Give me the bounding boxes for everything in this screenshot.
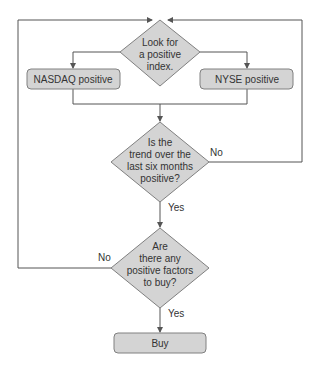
label-factors-yes: Yes: [168, 308, 184, 319]
label-trend-no: No: [210, 147, 223, 158]
svg-text:Is the: Is the: [148, 137, 173, 148]
node-factors: Are there any positive factors to buy?: [111, 228, 209, 308]
node-nasdaq: NASDAQ positive: [27, 69, 120, 89]
node-trend: Is the trend over the last six months po…: [111, 122, 209, 202]
svg-text:last six months: last six months: [127, 161, 193, 172]
svg-text:Are: Are: [152, 241, 168, 252]
svg-text:positive?: positive?: [140, 173, 180, 184]
svg-text:a positive: a positive: [139, 49, 182, 60]
edge-trend-no: [168, 20, 302, 162]
label-trend-yes: Yes: [168, 202, 184, 213]
node-buy: Buy: [114, 333, 206, 353]
label-factors-no: No: [98, 252, 111, 263]
node-start: Look for a positive index.: [120, 20, 200, 86]
svg-text:Look for: Look for: [142, 37, 179, 48]
svg-text:NASDAQ positive: NASDAQ positive: [34, 74, 113, 85]
svg-text:there any: there any: [139, 253, 181, 264]
svg-text:index.: index.: [147, 61, 174, 72]
edge-start-nasdaq: [73, 52, 120, 68]
edge-nasdaq-merge: [73, 89, 247, 104]
node-nyse: NYSE positive: [200, 69, 293, 89]
svg-text:Buy: Buy: [151, 338, 168, 349]
flowchart: Look for a positive index. NASDAQ positi…: [0, 0, 314, 373]
svg-text:positive factors: positive factors: [127, 265, 194, 276]
svg-text:NYSE positive: NYSE positive: [215, 74, 279, 85]
svg-text:trend over the: trend over the: [129, 149, 191, 160]
edge-start-nyse: [200, 52, 247, 68]
svg-text:to buy?: to buy?: [144, 277, 177, 288]
